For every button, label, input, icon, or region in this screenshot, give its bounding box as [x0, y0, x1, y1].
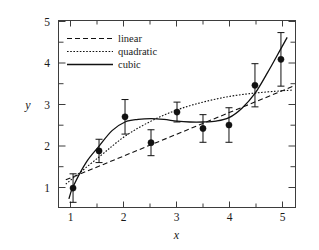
data-point-marker	[226, 122, 232, 128]
data-point-marker	[252, 82, 258, 88]
x-tick-label-4: 4	[227, 211, 233, 223]
data-point-marker	[122, 114, 128, 120]
legend-label-quadratic: quadratic	[118, 46, 157, 57]
data-point-marker	[174, 109, 180, 115]
data-point-marker	[200, 125, 206, 131]
legend: linear quadratic cubic	[67, 33, 157, 70]
data-point-marker	[148, 140, 154, 146]
curve-quadratic	[66, 90, 293, 184]
data-point-marker	[96, 148, 102, 154]
x-tick-label-2: 2	[121, 211, 127, 223]
x-tick-label-5: 5	[280, 211, 286, 223]
x-axis-title: x	[173, 228, 180, 242]
y-tick-label-3: 3	[44, 99, 50, 111]
legend-label-linear: linear	[118, 33, 142, 44]
curve-cubic	[69, 37, 287, 199]
error-bars-group	[70, 33, 285, 203]
figure-container: 1 2 3 4 5 1 2 3 4 5 x y linear quadratic	[0, 0, 319, 250]
y-tick-label-2: 2	[44, 140, 50, 152]
y-tick-label-4: 4	[44, 57, 50, 69]
data-markers-group	[70, 56, 284, 191]
x-tick-label-1: 1	[68, 211, 74, 223]
legend-label-cubic: cubic	[118, 59, 141, 70]
plot-svg: 1 2 3 4 5 1 2 3 4 5 x y linear quadratic	[0, 0, 319, 250]
curves-group	[66, 33, 293, 203]
curve-linear	[66, 87, 293, 180]
data-point-marker	[70, 185, 76, 191]
y-tick-label-5: 5	[44, 16, 50, 28]
y-tick-label-1: 1	[44, 182, 50, 194]
x-tick-label-3: 3	[174, 211, 180, 223]
y-axis-title: y	[24, 98, 31, 112]
data-point-marker	[278, 56, 284, 62]
